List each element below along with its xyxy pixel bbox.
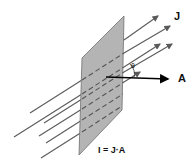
label-angle: θ [131, 62, 135, 69]
field-lines-front [124, 16, 172, 82]
label-area-vector: A [178, 72, 186, 84]
surface-plate [79, 16, 124, 155]
current-density-diagram: J A θ I = J·A [0, 0, 194, 168]
label-current-density: J [174, 10, 180, 22]
field-lines-back [14, 80, 82, 158]
label-equation: I = J·A [98, 145, 125, 155]
diagram-graphic [0, 0, 194, 168]
